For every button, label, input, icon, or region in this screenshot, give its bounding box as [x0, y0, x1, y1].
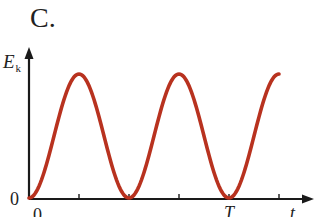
plot-area — [0, 0, 318, 217]
y-axis-arrow-icon — [25, 47, 34, 59]
kinetic-energy-curve — [29, 74, 279, 198]
x-axis-arrow-icon — [302, 195, 314, 204]
